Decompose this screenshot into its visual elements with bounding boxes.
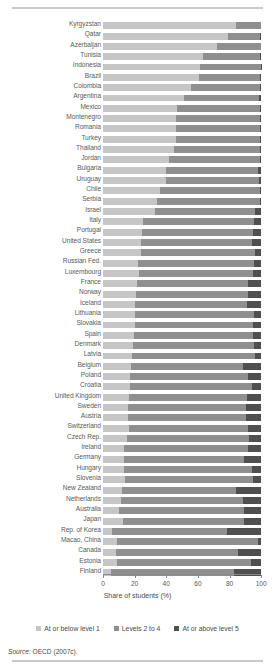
- axis-tick-label: 40: [163, 580, 170, 587]
- bar-segment: [103, 435, 127, 442]
- stacked-bar: [103, 146, 261, 153]
- country-label: Jordan: [5, 154, 101, 161]
- axis-tick-label: 20: [131, 580, 138, 587]
- bar-segment: [248, 425, 261, 432]
- bar-segment: [176, 125, 261, 132]
- country-label: Belgium: [5, 361, 101, 368]
- bar-segment: [248, 291, 261, 298]
- bar-segment: [103, 156, 169, 163]
- bar-segment: [248, 280, 261, 287]
- country-label: Israel: [5, 206, 101, 213]
- stacked-bar: [103, 476, 261, 483]
- chart-legend: At or below level 1Levels 2 to 4At or ab…: [0, 625, 275, 632]
- bar-segment: [122, 487, 236, 494]
- axis-tick: [230, 575, 231, 578]
- bar-segment: [103, 538, 117, 545]
- bar-segment: [253, 476, 261, 483]
- bar-segment: [129, 394, 247, 401]
- bar-segment: [253, 229, 261, 236]
- country-label: Estonia: [5, 557, 101, 564]
- country-label: Sweden: [5, 402, 101, 409]
- bar-segment: [260, 125, 261, 132]
- stacked-bar: [103, 538, 261, 545]
- bar-segment: [157, 198, 261, 205]
- source-prefix: Source:: [8, 648, 31, 655]
- bar-segment: [184, 95, 260, 102]
- bar-segment: [141, 249, 255, 256]
- axis-tick-label: 60: [194, 580, 201, 587]
- country-label: Luxembourg: [5, 268, 101, 275]
- country-label: Mexico: [5, 103, 101, 110]
- country-label: Slovenia: [5, 474, 101, 481]
- country-label: United States: [5, 237, 101, 244]
- bar-segment: [123, 518, 245, 525]
- country-label: Qatar: [5, 30, 101, 37]
- bar-segment: [117, 538, 258, 545]
- bar-segment: [131, 363, 243, 370]
- bar-segment: [103, 497, 121, 504]
- stacked-bar: [103, 528, 261, 535]
- country-label: Indonesia: [5, 61, 101, 68]
- bar-segment: [139, 270, 254, 277]
- country-label: Germany: [5, 453, 101, 460]
- legend-item: At or above level 5: [174, 625, 238, 632]
- country-label: Serbia: [5, 195, 101, 202]
- bar-segment: [142, 229, 253, 236]
- country-label: Macao, China: [5, 536, 101, 543]
- country-label: Iceland: [5, 299, 101, 306]
- country-label: Hungary: [5, 464, 101, 471]
- stacked-bar: [103, 549, 261, 556]
- bar-segment: [135, 311, 254, 318]
- stacked-bar: [103, 497, 261, 504]
- country-label: Norway: [5, 288, 101, 295]
- bar-segment: [103, 270, 139, 277]
- bar-segment: [103, 208, 155, 215]
- bar-segment: [121, 497, 243, 504]
- bar-segment: [199, 74, 260, 81]
- axis-tick: [135, 575, 136, 578]
- bar-segment: [103, 301, 135, 308]
- country-label: Russian Fed.: [5, 257, 101, 264]
- stacked-bar: [103, 198, 261, 205]
- bar-segment: [103, 425, 129, 432]
- bar-segment: [244, 456, 261, 463]
- bar-segment: [247, 394, 261, 401]
- bar-segment: [103, 528, 112, 535]
- stacked-bar: [103, 559, 261, 566]
- bar-segment: [258, 167, 261, 174]
- bar-segment: [260, 115, 261, 122]
- legend-swatch-icon: [114, 626, 119, 631]
- bar-segment: [228, 33, 261, 40]
- bar-segment: [124, 466, 252, 473]
- stacked-bar: [103, 291, 261, 298]
- stacked-bar: [103, 167, 261, 174]
- bar-segment: [103, 22, 236, 29]
- country-label: Japan: [5, 515, 101, 522]
- bar-segment: [243, 497, 261, 504]
- bar-segment: [169, 156, 260, 163]
- country-label: Italy: [5, 216, 101, 223]
- bar-segment: [236, 22, 261, 29]
- bar-segment: [103, 218, 143, 225]
- bar-segment: [248, 373, 261, 380]
- bar-segment: [103, 445, 124, 452]
- stacked-bar: [103, 363, 261, 370]
- bar-segment: [238, 549, 261, 556]
- country-label: Tunisia: [5, 51, 101, 58]
- stacked-bar: [103, 270, 261, 277]
- stacked-bar: [103, 373, 261, 380]
- bar-segment: [200, 64, 261, 71]
- bar-segment: [103, 280, 137, 287]
- bar-segment: [166, 167, 258, 174]
- bar-segment: [252, 383, 261, 390]
- country-label: Switzerland: [5, 422, 101, 429]
- stacked-bar: [103, 64, 261, 71]
- bar-segment: [103, 383, 130, 390]
- legend-label: At or below level 1: [44, 625, 100, 632]
- bar-segment: [255, 353, 261, 360]
- axis-tick: [261, 575, 262, 578]
- bar-segment: [128, 404, 246, 411]
- stacked-bar-chart: KyrgyzstanQatarAzerbaijanTunisiaIndonesi…: [0, 18, 275, 574]
- bar-segment: [103, 353, 132, 360]
- stacked-bar: [103, 84, 261, 91]
